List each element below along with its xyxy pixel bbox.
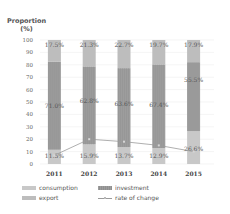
data-label-investment: 67.4% bbox=[149, 101, 168, 108]
y-tick-label: 0 bbox=[30, 161, 34, 167]
consumption-swatch-icon bbox=[22, 186, 36, 190]
data-label-export: 22.7% bbox=[114, 41, 133, 48]
legend-label-investment: investment bbox=[115, 184, 149, 191]
x-tick-label: 2011 bbox=[46, 170, 63, 177]
x-tick-label: 2014 bbox=[150, 170, 167, 177]
y-tick-label: 40 bbox=[26, 111, 33, 117]
data-label-consumption: 13.7% bbox=[114, 152, 133, 159]
legend-item-investment: investment bbox=[98, 184, 149, 191]
line-marker-icon bbox=[98, 196, 112, 200]
y-tick-label: 20 bbox=[26, 136, 33, 142]
x-tick-label: 2015 bbox=[185, 170, 202, 177]
data-label-investment: 62.8% bbox=[80, 97, 99, 104]
legend-item-consumption: consumption bbox=[22, 184, 78, 191]
data-label-investment: 71.0% bbox=[45, 102, 64, 109]
data-label-investment: 55.5% bbox=[184, 76, 203, 83]
y-tick-label: 90 bbox=[26, 49, 33, 55]
line-point-marker bbox=[123, 141, 125, 143]
data-label-export: 17.9% bbox=[184, 41, 203, 48]
x-tick-label: 2012 bbox=[81, 170, 98, 177]
data-label-investment: 63.6% bbox=[114, 100, 133, 107]
data-label-export: 19.7% bbox=[149, 41, 168, 48]
y-tick-label: 60 bbox=[26, 87, 33, 93]
data-label-consumption: 15.9% bbox=[80, 152, 99, 159]
y-tick-label: 30 bbox=[26, 124, 33, 130]
data-label-export: 17.5% bbox=[45, 41, 64, 48]
line-point-marker bbox=[158, 144, 160, 146]
legend-item-export: export bbox=[22, 194, 58, 201]
y-tick-label: 100 bbox=[23, 37, 34, 43]
line-point-marker bbox=[193, 151, 195, 153]
legend-label-consumption: consumption bbox=[39, 184, 78, 191]
data-label-consumption: 12.9% bbox=[149, 152, 168, 159]
y-tick-label: 70 bbox=[26, 74, 33, 80]
investment-swatch-icon bbox=[98, 186, 112, 190]
legend-label-export: export bbox=[39, 194, 58, 201]
legend-label-rate-of-change: rate of change bbox=[115, 194, 159, 201]
line-point-marker bbox=[53, 154, 55, 156]
x-tick-label: 2013 bbox=[116, 170, 133, 177]
y-tick-label: 10 bbox=[26, 149, 33, 155]
legend-item-rate-of-change: rate of change bbox=[98, 194, 159, 201]
y-tick-label: 50 bbox=[26, 99, 33, 105]
data-label-export: 21.3% bbox=[80, 41, 99, 48]
stacked-bar-chart: 010203040506070809010011.5%71.0%17.5%201… bbox=[0, 0, 230, 214]
line-point-marker bbox=[88, 138, 90, 140]
export-swatch-icon bbox=[22, 196, 36, 200]
y-tick-label: 80 bbox=[26, 62, 33, 68]
